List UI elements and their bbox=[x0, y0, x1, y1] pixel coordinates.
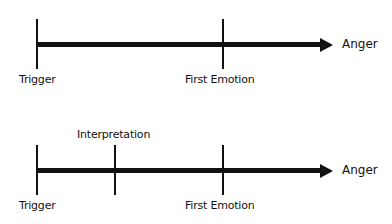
timeline-top: Anger Trigger First Emotion bbox=[0, 0, 392, 112]
tick-first-emotion bbox=[222, 145, 224, 195]
label-trigger: Trigger bbox=[19, 73, 56, 86]
tick-interpretation bbox=[114, 145, 116, 195]
label-trigger: Trigger bbox=[19, 199, 56, 212]
arrowhead-icon bbox=[320, 38, 333, 52]
tick-first-emotion bbox=[222, 19, 224, 69]
timeline-arrow-bar bbox=[37, 168, 321, 173]
end-label-anger: Anger bbox=[342, 37, 378, 51]
end-label-anger: Anger bbox=[342, 163, 378, 177]
arrowhead-icon bbox=[320, 164, 333, 178]
timeline-arrow-bar bbox=[37, 42, 321, 47]
label-interpretation: Interpretation bbox=[77, 128, 150, 141]
tick-trigger bbox=[36, 145, 38, 195]
label-first-emotion: First Emotion bbox=[185, 73, 255, 86]
timeline-bottom: Anger Trigger Interpretation First Emoti… bbox=[0, 112, 392, 224]
label-first-emotion: First Emotion bbox=[185, 199, 255, 212]
tick-trigger bbox=[36, 19, 38, 69]
